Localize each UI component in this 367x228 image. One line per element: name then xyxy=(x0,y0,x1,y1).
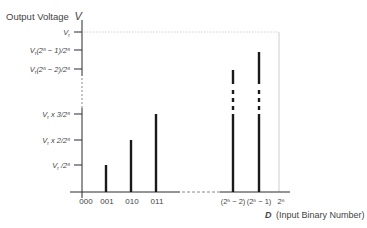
svg-text:010: 010 xyxy=(125,197,139,206)
y-axis-title: Output Voltage V xyxy=(6,10,84,22)
y-tick-marks xyxy=(74,32,82,165)
svg-text:011: 011 xyxy=(151,197,164,206)
bars xyxy=(106,52,259,192)
svg-text:000: 000 xyxy=(79,197,93,206)
svg-text:Vr: Vr xyxy=(63,28,70,38)
y-tick-labels: Vr Vr(2ⁿ − 1)/2ⁿ Vr(2ⁿ − 2)/2ⁿ Vr x 3/2ⁿ… xyxy=(30,28,71,171)
svg-text:(2ⁿ − 2): (2ⁿ − 2) xyxy=(221,197,246,206)
svg-text:Vr(2ⁿ − 2)/2ⁿ: Vr(2ⁿ − 2)/2ⁿ xyxy=(30,65,71,75)
x-tick-labels: 000 001 010 011 (2ⁿ − 2) (2ⁿ − 1) 2ⁿ xyxy=(79,197,284,206)
svg-text:Vr /2ⁿ: Vr /2ⁿ xyxy=(52,161,70,171)
svg-text:Vr(2ⁿ − 1)/2ⁿ: Vr(2ⁿ − 1)/2ⁿ xyxy=(30,46,71,56)
svg-text:2ⁿ: 2ⁿ xyxy=(278,197,285,206)
x-axis-title: D (Input Binary Number) xyxy=(265,210,365,220)
dac-transfer-diagram: Output Voltage V Vr Vr(2ⁿ − 1)/2ⁿ Vr(2ⁿ … xyxy=(0,0,367,228)
svg-text:(2ⁿ − 1): (2ⁿ − 1) xyxy=(247,197,272,206)
svg-text:Vr x 2/2ⁿ: Vr x 2/2ⁿ xyxy=(42,136,70,146)
svg-text:Vr x 3/2ⁿ: Vr x 3/2ⁿ xyxy=(42,110,70,120)
svg-text:001: 001 xyxy=(100,197,114,206)
